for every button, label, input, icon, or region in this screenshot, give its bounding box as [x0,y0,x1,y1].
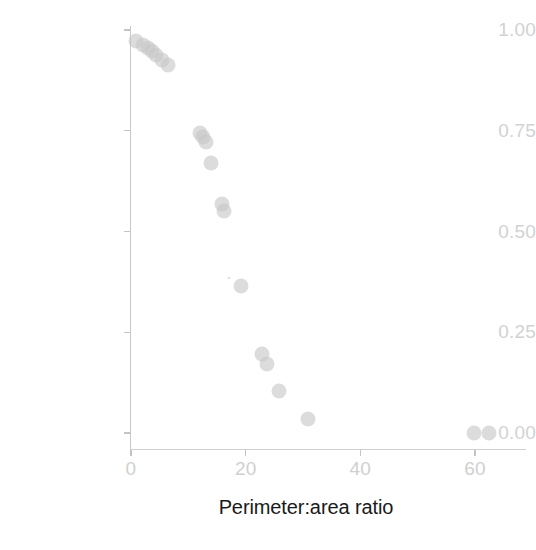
data-point [234,278,249,293]
y-axis-title-text: Probability (lizards present) [0,155,1,394]
y-tick-mark [124,130,130,131]
y-tick-mark [124,29,130,30]
x-tick-mark [245,450,246,456]
x-tick-mark [360,450,361,456]
x-axis-line [130,449,526,450]
y-axis-title: Probability (lizards present) [46,0,92,550]
y-axis-line [130,26,131,450]
data-point [301,411,316,426]
x-tick-label: 40 [330,458,390,480]
data-point [272,383,287,398]
data-point [216,204,231,219]
x-tick-mark [130,450,131,456]
y-tick-mark [124,231,130,232]
x-axis-title: Perimeter:area ratio [131,489,481,525]
x-tick-label: 60 [445,458,505,480]
data-point [482,426,497,441]
x-tick-label: 20 [216,458,276,480]
y-tick-label: 0.25 [418,321,536,343]
y-tick-label: 0.50 [418,221,536,243]
data-point [160,58,175,73]
data-point [199,135,214,150]
y-tick-mark [124,332,130,333]
data-point [259,357,274,372]
data-point [204,155,219,170]
data-point [466,426,481,441]
y-tick-label: 0.75 [418,120,536,142]
image-artifact-speck [228,277,231,279]
x-tick-label: 0 [101,458,161,480]
y-tick-label: 1.00 [418,19,536,41]
y-tick-mark [124,432,130,433]
x-tick-mark [474,450,475,456]
scatter-plot-figure: Probability (lizards present) Perimeter:… [0,0,536,550]
x-axis-title-text: Perimeter:area ratio [219,496,394,519]
